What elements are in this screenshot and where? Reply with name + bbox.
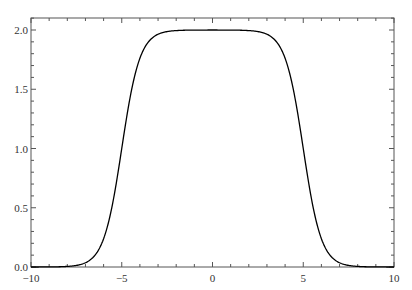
x-tick-label: −10 — [22, 272, 40, 284]
y-axis-labels: 0.00.51.01.52.0 — [14, 24, 28, 273]
y-tick-label: 0.0 — [14, 261, 28, 273]
y-tick-label: 0.5 — [14, 202, 28, 214]
y-tick-label: 1.0 — [14, 143, 28, 155]
x-axis-labels: −10−50510 — [22, 272, 400, 284]
x-tick-label: 5 — [301, 272, 307, 284]
y-tick-label: 2.0 — [14, 24, 28, 36]
line-chart: −10−50510 0.00.51.01.52.0 — [0, 0, 412, 290]
axis-ticks — [31, 18, 394, 267]
x-tick-label: 10 — [389, 272, 401, 284]
data-curve — [31, 30, 394, 267]
x-tick-label: 0 — [210, 272, 216, 284]
y-tick-label: 1.5 — [14, 83, 28, 95]
plot-frame — [31, 18, 394, 267]
x-tick-label: −5 — [116, 272, 128, 284]
